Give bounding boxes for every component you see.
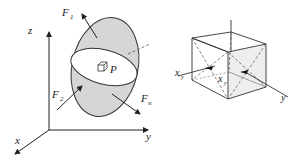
diagram-canvas: z x y P F 1 F 2 F n <box>0 0 296 164</box>
inner-x-subscript: y <box>223 80 227 86</box>
inner-x-label: x <box>217 73 223 84</box>
force-fn-subscript: n <box>148 99 152 107</box>
force-f1-subscript: 1 <box>70 13 74 21</box>
point-label: P <box>109 63 117 75</box>
y-axis-label: y <box>145 130 151 142</box>
y-label-right: y <box>280 92 286 103</box>
left-figure: z x y P F 1 F 2 F n <box>14 6 152 154</box>
z-axis-label: z <box>27 24 33 36</box>
force-f2-label: F <box>51 88 59 100</box>
stress-arrow-left-icon <box>205 66 213 70</box>
right-figure-cube <box>178 20 288 99</box>
x-label-right: x <box>174 67 180 78</box>
x-axis <box>15 130 49 154</box>
force-f2-subscript: 2 <box>60 95 64 103</box>
x-subscript-right: y <box>180 74 184 80</box>
force-fn-label: F <box>140 92 148 104</box>
force-f1-label: F <box>61 6 69 18</box>
x-axis-label: x <box>14 134 20 146</box>
